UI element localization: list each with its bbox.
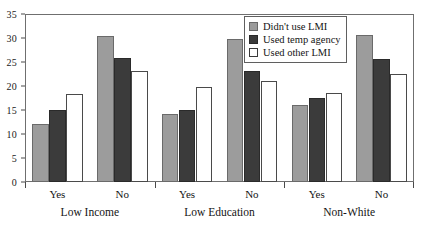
x-axis: YesNoYesNoYesNoLow IncomeLow EducationNo… [25,182,414,226]
bar [309,98,326,182]
x-axis-subgroup-label: Yes [309,188,325,200]
bar [390,74,407,182]
legend: Didn't use LMIUsed temp agencyUsed other… [244,16,347,63]
bar [49,110,66,182]
legend-item-label: Used other LMI [263,47,331,59]
x-axis-subgroup-label: No [375,188,388,200]
legend-item: Didn't use LMI [249,20,341,33]
bar [261,81,278,182]
legend-swatch-icon [249,48,258,57]
bar [227,39,244,182]
y-axis-tick-label: 20 [6,81,17,92]
y-axis-tick-label: 25 [6,57,17,68]
x-axis-subgroup-label: Yes [49,188,65,200]
y-axis-tick-label: 10 [6,129,17,140]
x-axis-subgroup-label: Yes [179,188,195,200]
bar [292,105,309,182]
x-axis-group-label: Non-White [323,206,375,218]
bar [66,94,83,182]
legend-item: Used temp agency [249,33,341,46]
bars-layer [25,14,414,182]
bar [162,114,179,182]
y-axis: 05101520253035 [0,0,25,226]
x-axis-group-label: Low Income [61,206,119,218]
legend-swatch-icon [249,22,258,31]
bar [196,87,213,182]
legend-item-label: Used temp agency [263,34,341,46]
y-axis-tick-label: 0 [12,177,17,188]
x-axis-subgroup-label: No [245,188,258,200]
y-axis-tick-label: 35 [6,9,17,20]
y-axis-tick-label: 30 [6,33,17,44]
bar-chart-figure: 05101520253035 YesNoYesNoYesNoLow Income… [0,0,429,226]
x-axis-end-tick [413,182,414,188]
bar [373,59,390,182]
x-axis-group-separator [155,182,156,188]
x-axis-end-tick [25,182,26,188]
bar [114,58,131,182]
bar [32,124,49,182]
bar [326,93,343,182]
legend-swatch-icon [249,35,258,44]
bar [244,71,261,182]
bar [131,71,148,182]
y-axis-tick-label: 5 [12,153,17,164]
bar [356,35,373,182]
bar [179,110,196,182]
legend-item: Used other LMI [249,46,341,59]
x-axis-group-label: Low Education [184,206,255,218]
y-axis-tick-label: 15 [6,105,17,116]
x-axis-group-separator [284,182,285,188]
bar [97,36,114,182]
x-axis-subgroup-label: No [116,188,129,200]
legend-item-label: Didn't use LMI [263,21,327,33]
